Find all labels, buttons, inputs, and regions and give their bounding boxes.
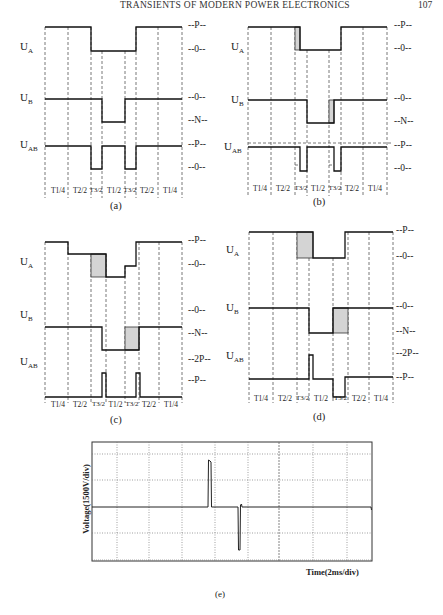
level-d-2: --0--: [396, 301, 413, 311]
scope-xlabel: Time(2ms/div): [306, 567, 359, 577]
interval-c-0: T1/4: [48, 400, 68, 409]
interval-d-1: T2/2: [275, 394, 295, 403]
label-ua-a: UA: [20, 40, 33, 55]
level-c-2: --0--: [188, 305, 205, 315]
level-c-1: --0--: [188, 259, 205, 269]
label-ub-c: UB: [20, 308, 33, 323]
interval-c-5: T2/2: [139, 400, 159, 409]
interval-d-5: T2/2: [349, 394, 369, 403]
interval-b-0: T1/4: [250, 184, 270, 193]
caption-b: (b): [313, 196, 325, 207]
level-b-3: --N--: [394, 116, 414, 126]
figure-canvas: .dash { stroke:#555; stroke-width:0.8; s…: [0, 0, 443, 615]
interval-c-4: T3/2: [125, 400, 139, 408]
level-b-2: --0--: [394, 93, 411, 103]
level-d-3: --N--: [396, 326, 416, 336]
interval-c-2: T3/2: [91, 400, 106, 408]
caption-d: (d): [313, 411, 325, 422]
interval-b-3: T1/2: [308, 184, 328, 193]
interval-dividers: [45, 27, 182, 198]
panel-c: [45, 242, 182, 403]
label-uab-d: UAB: [226, 349, 244, 364]
interval-c-1: T2/2: [70, 400, 90, 409]
level-a-4: --P--: [188, 139, 206, 149]
level-b-1: --0--: [394, 43, 411, 53]
interval-a-5: T2/2: [137, 186, 157, 195]
interval-b-4: T3/2: [328, 184, 342, 192]
level-c-3: --N--: [188, 328, 208, 338]
label-ub-d: UB: [226, 301, 239, 316]
interval-c-3: T1/2: [106, 400, 125, 409]
interval-d-0: T1/4: [251, 394, 271, 403]
label-uab-b: UAB: [224, 140, 242, 155]
label-ua-c: UA: [20, 255, 33, 270]
interval-a-0: T1/4: [48, 186, 68, 195]
caption-e: (e): [215, 589, 225, 599]
interval-b-5: T2/2: [342, 184, 362, 193]
label-ua-d: UA: [226, 243, 239, 258]
caption-a: (a): [110, 200, 122, 211]
scope-ylabel: Voltage(1500V/div): [81, 453, 91, 545]
level-c-0: --P--: [188, 235, 206, 245]
level-b-5: --0--: [394, 163, 411, 173]
interval-b-2: T3/2: [294, 184, 308, 192]
level-b-4: --P--: [394, 140, 412, 150]
interval-a-2: T3/2: [89, 186, 103, 194]
level-d-5: --P--: [396, 372, 414, 382]
interval-d-4: T3/2: [333, 394, 348, 402]
interval-a-4: T3/2: [123, 186, 137, 194]
interval-b-6: T1/4: [365, 184, 385, 193]
waveform-ua: [45, 27, 182, 51]
level-d-1: --0--: [396, 251, 413, 261]
level-c-5: --P--: [188, 375, 206, 385]
label-uab-c: UAB: [20, 355, 38, 370]
label-ua-b: UA: [231, 40, 244, 55]
interval-a-6: T1/4: [160, 186, 180, 195]
interval-a-1: T2/2: [70, 186, 90, 195]
label-ub-a: UB: [20, 91, 33, 106]
level-c-4: --2P--: [188, 354, 211, 364]
level-a-2: --0--: [188, 92, 205, 102]
panel-d: [249, 232, 393, 403]
panel-b: [248, 27, 392, 196]
level-a-5: --0--: [188, 162, 205, 172]
level-a-1: --0--: [188, 44, 205, 54]
label-uab-a: UAB: [20, 138, 38, 153]
interval-a-3: T1/2: [104, 186, 124, 195]
level-d-4: --2P--: [396, 348, 419, 358]
label-ub-b: UB: [231, 93, 244, 108]
level-b-0: --P--: [394, 20, 412, 30]
level-a-3: --N--: [188, 115, 208, 125]
panel-a: [45, 27, 182, 198]
caption-c: (c): [110, 414, 122, 425]
interval-c-6: T1/4: [161, 400, 181, 409]
waveform-ub: [45, 99, 182, 122]
level-d-0: --P--: [396, 225, 414, 235]
panel-e-oscilloscope: [92, 442, 372, 561]
interval-d-6: T1/4: [371, 394, 391, 403]
waveform-uab: [45, 146, 182, 169]
interval-b-1: T2/2: [273, 184, 293, 193]
interval-d-3: T1/2: [310, 394, 332, 403]
interval-d-2: T3/2: [296, 394, 309, 402]
level-a-0: --P--: [188, 20, 206, 30]
